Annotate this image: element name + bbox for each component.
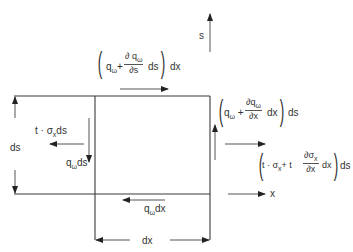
- t-sigma: t · σ: [262, 160, 278, 170]
- left-shear-label: qωds: [66, 158, 88, 170]
- plus-sign: +: [117, 61, 123, 72]
- numerator-subscript: ω: [255, 102, 260, 109]
- s-axis-label: s: [199, 31, 204, 41]
- dx-multiplier: dx: [170, 62, 181, 72]
- close-paren: ): [334, 150, 339, 180]
- ds-factor: ds: [148, 62, 159, 72]
- q-omega: qω+: [106, 62, 123, 74]
- denominator: ∂x: [249, 111, 258, 121]
- dx-dimension-label: dx: [142, 236, 153, 246]
- plus-sign: +: [238, 107, 244, 118]
- close-paren: ): [280, 96, 285, 126]
- q-omega: qω +: [224, 108, 244, 120]
- element-outline: [14, 96, 210, 240]
- q-subscript: ω: [230, 113, 235, 120]
- ds-dimension-label: ds: [10, 143, 21, 153]
- plus-t: + t: [282, 160, 292, 170]
- open-paren: (: [219, 96, 224, 126]
- numerator-subscript: ω: [137, 56, 142, 63]
- numerator: ∂ q: [125, 51, 137, 61]
- denominator: ∂s: [129, 65, 138, 75]
- x-axis-label: x: [270, 189, 275, 199]
- t-sigma-x: t · σx+ t: [262, 161, 292, 172]
- ds-suffix: ds: [56, 125, 67, 136]
- bottom-shear-label: qωdx: [144, 204, 166, 216]
- dx-factor: dx: [322, 161, 332, 170]
- ds-multiplier: ds: [340, 161, 351, 171]
- derivative-fraction: ∂qω ∂x: [245, 98, 262, 121]
- derivative-fraction: ∂ qω ∂s: [124, 52, 143, 75]
- denominator: ∂x: [306, 164, 315, 174]
- ds-multiplier: ds: [288, 108, 299, 118]
- derivative-fraction: ∂σx ∂x: [303, 151, 319, 174]
- dx-factor: dx: [267, 108, 278, 118]
- numerator-subscript: x: [314, 155, 318, 162]
- numerator: ∂σ: [304, 150, 314, 160]
- dx-suffix: dx: [155, 203, 166, 214]
- close-paren: ): [161, 48, 166, 78]
- t-sigma: t · σ: [35, 125, 53, 136]
- ds-suffix: ds: [77, 157, 88, 168]
- open-paren: (: [98, 48, 103, 78]
- left-normal-label: t · σxds: [35, 126, 67, 138]
